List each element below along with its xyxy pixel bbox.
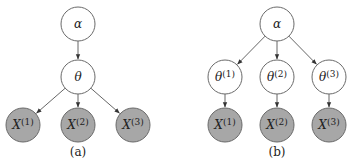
node-theta: θ (61, 60, 95, 94)
node-x1: X(1) (6, 108, 40, 142)
node-label: α (74, 17, 82, 31)
node-x2: X(2) (260, 108, 294, 142)
node-alpha: α (260, 7, 294, 41)
node-x3: X(3) (312, 108, 346, 142)
node-alpha: α (61, 7, 95, 41)
edge-alpha-to-theta3 (289, 36, 316, 64)
node-x2: X(2) (61, 108, 95, 142)
panel-b: αθ(1)θ(2)θ(3)X(1)X(2)X(3)(b) (208, 7, 346, 159)
edge-theta-to-x1 (37, 88, 66, 113)
node-x3: X(3) (116, 108, 150, 142)
node-theta1: θ(1) (208, 60, 242, 94)
node-theta2: θ(2) (260, 60, 294, 94)
node-label: α (273, 17, 281, 31)
panel-caption: (a) (70, 145, 87, 159)
panel-caption: (b) (268, 145, 285, 159)
node-theta3: θ(3) (312, 60, 346, 94)
graphical-model-diagram: αθX(1)X(2)X(3)(a) αθ(1)θ(2)θ(3)X(1)X(2)X… (0, 0, 355, 167)
node-x1: X(1) (208, 108, 242, 142)
node-label: θ (74, 70, 82, 84)
panel-a: αθX(1)X(2)X(3)(a) (6, 7, 150, 159)
edge-alpha-to-theta1 (238, 36, 265, 64)
edge-theta-to-x3 (91, 88, 120, 113)
